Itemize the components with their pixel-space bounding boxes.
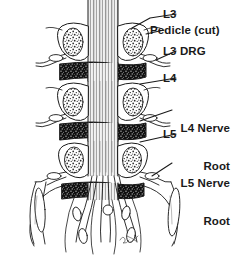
- anatomy-figure: L3 Pedicle (cut) L3 DRG L4 L4 Nerve Root…: [0, 0, 234, 260]
- label-pedicle-cut: Pedicle (cut): [150, 24, 220, 37]
- label-l4: L4: [163, 72, 177, 85]
- intervertebral-disc-l3-l4: [60, 62, 146, 81]
- dural-sac: [88, 0, 118, 176]
- label-l5-nerve-root-line2: Root: [150, 215, 230, 228]
- label-l5-nerve-root: L5 Nerve Root: [150, 152, 230, 252]
- label-l5: L5: [163, 128, 177, 141]
- label-l3: L3: [163, 8, 177, 21]
- label-l3-drg: L3 DRG: [163, 45, 206, 58]
- label-l4-nerve-root-line1: L4 Nerve: [150, 122, 230, 135]
- label-l5-nerve-root-line1: L5 Nerve: [150, 177, 230, 190]
- nerve-root-l5-left: [35, 172, 66, 185]
- intervertebral-disc-l4-l5: [60, 122, 146, 141]
